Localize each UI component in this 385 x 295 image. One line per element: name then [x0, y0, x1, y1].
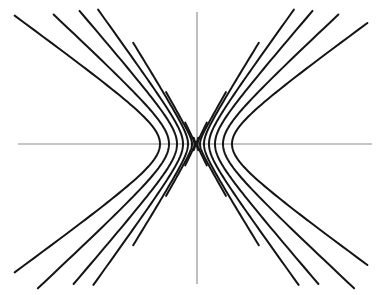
figure-canvas: [0, 0, 385, 295]
hyperbola-figure: [0, 0, 385, 295]
